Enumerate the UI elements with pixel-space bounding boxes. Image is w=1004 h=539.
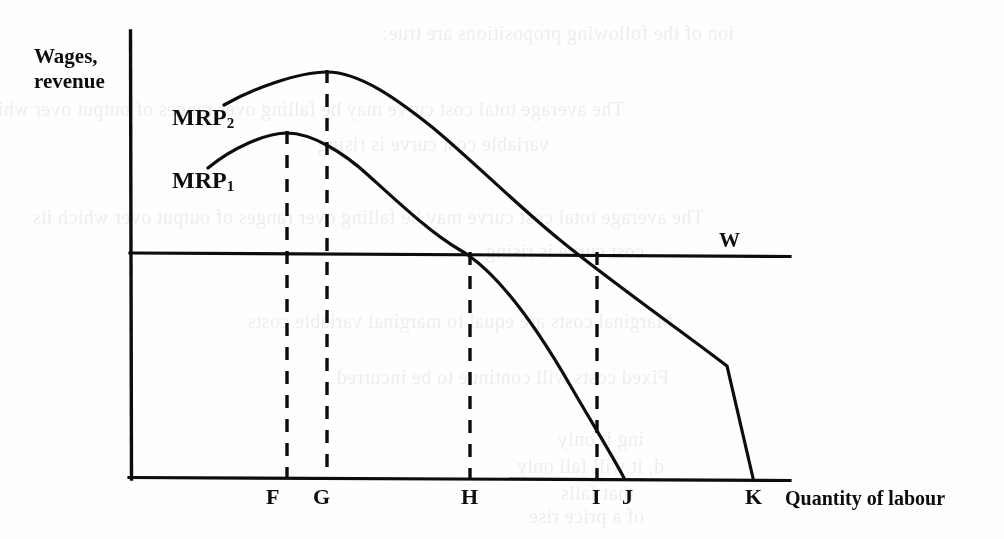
- x-axis: [129, 478, 790, 481]
- y-axis-title: Wages, revenue: [34, 44, 105, 94]
- mrp1-label-subscript: 1: [227, 178, 235, 194]
- y-axis-title-line1: Wages,: [34, 44, 105, 69]
- mrp2-label-base: MRP: [172, 104, 227, 130]
- tick-label-h: H: [461, 484, 478, 510]
- y-axis-title-line2: revenue: [34, 69, 105, 94]
- mrp2-label: MRP2: [172, 104, 234, 132]
- y-axis: [131, 31, 132, 479]
- mrp1-curve: [208, 133, 624, 478]
- mrp2-label-subscript: 2: [227, 115, 235, 131]
- tick-label-f: F: [266, 484, 279, 510]
- mrp1-label: MRP1: [172, 167, 234, 195]
- wage-line: [130, 253, 790, 257]
- mrp1-label-base: MRP: [172, 167, 227, 193]
- mrp2-curve: [224, 72, 753, 478]
- tick-label-k: K: [745, 484, 762, 510]
- tick-label-j: J: [622, 484, 633, 510]
- tick-label-g: G: [313, 484, 330, 510]
- x-axis-title: Quantity of labour: [785, 487, 945, 510]
- scanned-figure-page: ion of the following propositions are tr…: [0, 0, 1004, 539]
- tick-label-i: I: [592, 484, 601, 510]
- mrp-diagram: [0, 0, 1004, 539]
- wage-line-label: W: [719, 228, 740, 253]
